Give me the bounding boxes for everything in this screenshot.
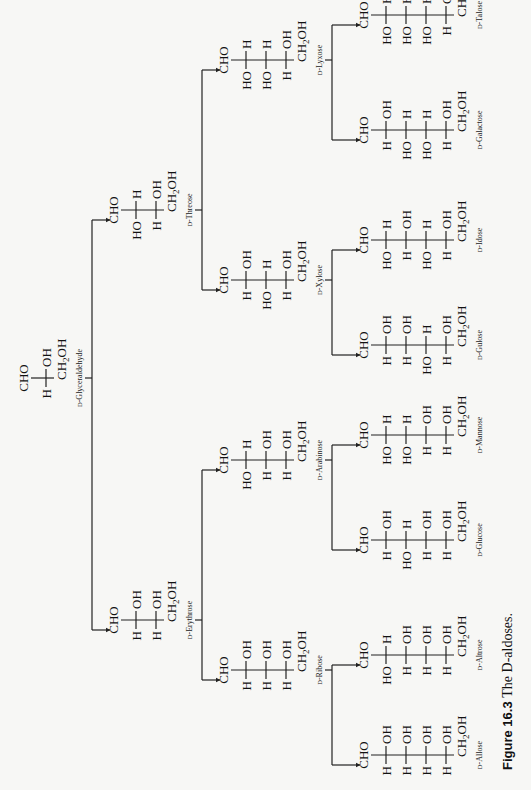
right-substituent: H xyxy=(399,0,414,4)
left-substituent: H xyxy=(439,551,454,560)
left-substituent: HO xyxy=(419,26,434,45)
left-substituent: H xyxy=(419,551,434,560)
hydroxymethyl-group: CH2OH xyxy=(454,501,471,542)
sugar-name-label: D-Glyceraldehyde xyxy=(75,349,84,407)
right-substituent: H xyxy=(379,0,394,4)
branch-erythrose xyxy=(195,468,221,682)
right-substituent: OH xyxy=(439,100,454,119)
aldose-family-tree: CHOHOHCH2OHD-GlyceraldehydeCHOHOHHOHCH2O… xyxy=(0,0,531,790)
left-substituent: H xyxy=(419,446,434,455)
hydroxymethyl-group: CH2OH xyxy=(294,241,311,282)
sugar-name-label: D-Gulose xyxy=(475,330,484,360)
left-substituent: H xyxy=(439,141,454,150)
right-substituent: OH xyxy=(399,625,414,644)
left-substituent: H xyxy=(439,26,454,35)
left-substituent: HO xyxy=(419,356,434,375)
left-substituent: H xyxy=(279,71,294,80)
left-substituent: H xyxy=(129,631,144,640)
left-substituent: HO xyxy=(379,666,394,685)
hydroxymethyl-group: CH2OH xyxy=(164,581,181,622)
left-substituent: HO xyxy=(129,221,144,240)
right-substituent: OH xyxy=(279,640,294,659)
fischer-mannose: CHOHOHHOHHOHHOHCH2OHD-Mannose xyxy=(356,396,484,465)
sugar-name-label: D-Glucose xyxy=(475,523,484,557)
fischer-gulose: CHOHOHHOHHOHHOHCH2OHD-Gulose xyxy=(356,306,484,375)
fischer-erythrose: CHOHOHHOHCH2OHD-Erythrose xyxy=(106,581,194,641)
right-substituent: OH xyxy=(379,725,394,744)
left-substituent: H xyxy=(399,766,414,775)
left-substituent: H xyxy=(379,141,394,150)
right-substituent: OH xyxy=(149,180,164,199)
right-substituent: OH xyxy=(439,725,454,744)
right-substituent: H xyxy=(239,440,254,449)
left-substituent: H xyxy=(279,291,294,300)
branch-glyceraldehyde xyxy=(85,218,111,632)
right-substituent: OH xyxy=(419,510,434,529)
left-substituent: H xyxy=(399,251,414,260)
left-substituent: H xyxy=(259,681,274,690)
left-substituent: H xyxy=(239,291,254,300)
left-substituent: H xyxy=(439,666,454,675)
left-substituent: H xyxy=(379,766,394,775)
sugar-name-label: D-Galactose xyxy=(475,110,484,149)
right-substituent: OH xyxy=(419,625,434,644)
right-substituent: OH xyxy=(259,430,274,449)
right-substituent: H xyxy=(259,40,274,49)
d-aldoses-diagram: CHOHOHCH2OHD-GlyceraldehydeCHOHOHHOHCH2O… xyxy=(0,0,531,790)
right-substituent: H xyxy=(419,220,434,229)
right-substituent: H xyxy=(419,0,434,4)
sugar-name-label: D-Erythrose xyxy=(185,600,194,639)
hydroxymethyl-group: CH2OH xyxy=(54,339,71,380)
right-substituent: H xyxy=(399,110,414,119)
left-substituent: H xyxy=(399,356,414,365)
hydroxymethyl-group: CH2OH xyxy=(454,91,471,132)
sugar-name-label: D-Threose xyxy=(185,193,194,227)
right-substituent: OH xyxy=(259,640,274,659)
right-substituent: H xyxy=(379,635,394,644)
hydroxymethyl-group: CH2OH xyxy=(454,306,471,347)
right-substituent: OH xyxy=(239,250,254,269)
right-substituent: H xyxy=(399,415,414,424)
left-substituent: HO xyxy=(399,446,414,465)
fischer-talose: CHOHOHHOHHOHHOHCH2OHD-Talose xyxy=(356,0,484,45)
right-substituent: H xyxy=(419,325,434,334)
left-substituent: HO xyxy=(379,251,394,270)
fischer-ribose: CHOHOHHOHHOHCH2OHD-Ribose xyxy=(216,631,324,691)
left-substituent: H xyxy=(149,221,164,230)
hydroxymethyl-group: CH2OH xyxy=(454,396,471,437)
right-substituent: OH xyxy=(419,405,434,424)
hydroxymethyl-group: CH2OH xyxy=(164,171,181,212)
right-substituent: OH xyxy=(379,315,394,334)
left-substituent: HO xyxy=(239,471,254,490)
fischer-glucose: CHOHOHHOHHOHHOHCH2OHD-Glucose xyxy=(356,501,484,570)
right-substituent: OH xyxy=(39,348,54,367)
left-substituent: H xyxy=(149,631,164,640)
sugar-name-label: D-Talose xyxy=(475,0,484,29)
left-substituent: H xyxy=(439,446,454,455)
right-substituent: OH xyxy=(239,640,254,659)
left-substituent: H xyxy=(439,766,454,775)
fischer-altrose: CHOHOHHOHHOHHOHCH2OHD-Altrose xyxy=(356,616,484,685)
right-substituent: H xyxy=(399,520,414,529)
right-substituent: OH xyxy=(399,725,414,744)
left-substituent: HO xyxy=(399,551,414,570)
hydroxymethyl-group: CH2OH xyxy=(454,616,471,657)
sugar-name-label: D-Altrose xyxy=(475,639,484,670)
right-substituent: OH xyxy=(379,100,394,119)
left-substituent: H xyxy=(279,471,294,480)
left-substituent: HO xyxy=(379,26,394,45)
left-substituent: H xyxy=(419,666,434,675)
fischer-arabinose: CHOHOHHOHHOHCH2OHD-Arabinose xyxy=(216,421,324,490)
right-substituent: H xyxy=(379,415,394,424)
fischer-idose: CHOHOHHOHHOHHOHCH2OHD-Idose xyxy=(356,201,484,270)
left-substituent: H xyxy=(439,356,454,365)
right-substituent: OH xyxy=(399,315,414,334)
left-substituent: HO xyxy=(239,71,254,90)
right-substituent: OH xyxy=(439,625,454,644)
left-substituent: HO xyxy=(419,141,434,160)
left-substituent: H xyxy=(379,551,394,560)
left-substituent: H xyxy=(379,356,394,365)
right-substituent: OH xyxy=(149,590,164,609)
fischer-allose: CHOHOHHOHHOHHOHCH2OHD-Allose xyxy=(356,716,484,776)
right-substituent: H xyxy=(129,190,144,199)
